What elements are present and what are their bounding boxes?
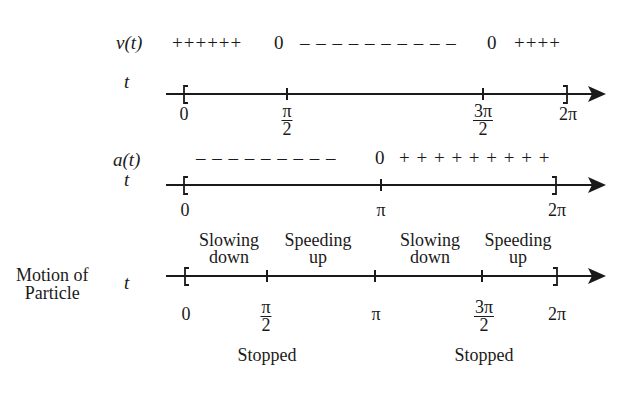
acceleration-label: a(t) bbox=[113, 149, 140, 171]
velocity-positive-signs: ++++++ bbox=[172, 32, 242, 54]
tick-label-0: 0 bbox=[182, 304, 191, 325]
velocity-zero: 0 bbox=[274, 32, 285, 54]
tick-label-3pi-over-2: 3π2 bbox=[474, 297, 494, 334]
tick-label-pi-over-2: π2 bbox=[260, 297, 271, 334]
axis-variable-t: t bbox=[124, 169, 129, 191]
acceleration-zero: 0 bbox=[375, 147, 386, 169]
tick-label-0: 0 bbox=[181, 200, 190, 221]
velocity-positive-signs: ++++ bbox=[514, 32, 561, 54]
tick-label-pi: π bbox=[376, 200, 385, 221]
axis-variable-t: t bbox=[124, 71, 129, 93]
axis-variable-t: t bbox=[124, 272, 129, 294]
motion-of-particle-label: Motion of Particle bbox=[16, 266, 89, 302]
velocity-negative-signs: – – – – – – – – – – bbox=[300, 32, 457, 54]
axis-1-line bbox=[166, 86, 606, 103]
tick-label-0: 0 bbox=[180, 104, 189, 125]
axis-3-line bbox=[166, 268, 606, 285]
velocity-label: v(t) bbox=[116, 32, 142, 54]
tick-label-pi: π bbox=[371, 304, 380, 325]
interval-speeding-up: Speeding up bbox=[485, 232, 552, 266]
axis-2-line bbox=[166, 177, 606, 194]
tick-label-pi-over-2: π2 bbox=[281, 101, 292, 138]
tick-label-2pi: 2π bbox=[559, 104, 577, 125]
interval-slowing-down: Slowing down bbox=[400, 232, 460, 266]
tick-label-3pi-over-2: 3π2 bbox=[473, 101, 493, 138]
tick-label-2pi: 2π bbox=[548, 200, 566, 221]
velocity-zero: 0 bbox=[487, 32, 498, 54]
stopped-label: Stopped bbox=[454, 345, 513, 366]
number-lines bbox=[0, 0, 632, 397]
acceleration-negative-signs: – – – – – – – – – bbox=[196, 147, 337, 169]
tick-label-2pi: 2π bbox=[548, 304, 566, 325]
interval-speeding-up: Speeding up bbox=[285, 232, 352, 266]
interval-slowing-down: Slowing down bbox=[199, 232, 259, 266]
acceleration-positive-signs: + + + + + + + + + bbox=[399, 147, 550, 169]
stopped-label: Stopped bbox=[237, 345, 296, 366]
